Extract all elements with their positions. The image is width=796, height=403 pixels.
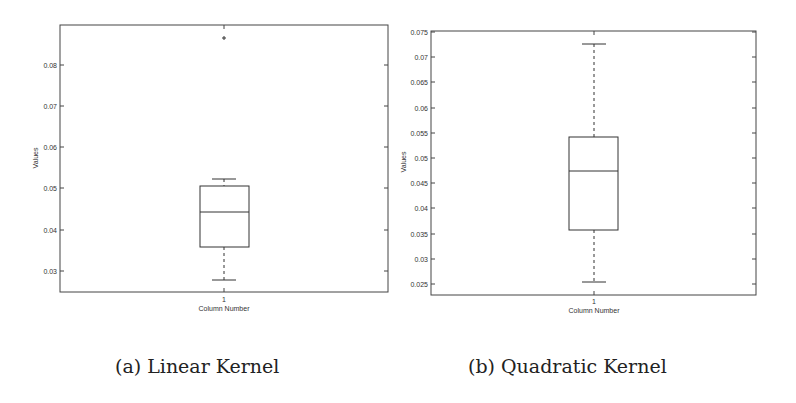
ytick-label: 0.06	[43, 144, 57, 151]
ytick-label: 0.03	[414, 256, 428, 263]
caption-b: (b) Quadratic Kernel	[468, 355, 667, 377]
ytick-label: 0.04	[414, 205, 428, 212]
ytick-label: 0.05	[43, 185, 57, 192]
caption-a: (a) Linear Kernel	[115, 355, 279, 377]
ytick-label: 0.025	[410, 281, 428, 288]
ytick-label: 0.075	[410, 29, 428, 36]
chart-a-axes-box	[60, 25, 388, 292]
chart-a-ytick-labels: 0.08 0.07 0.06 0.05 0.04 0.03	[43, 62, 57, 275]
ytick-label: 0.07	[43, 103, 57, 110]
ytick-label: 0.06	[414, 105, 428, 112]
ytick-label: 0.03	[43, 268, 57, 275]
ytick-label: 0.065	[410, 79, 428, 86]
chart-b-ylabel: Values	[400, 151, 407, 172]
chart-a-ylabel: Values	[32, 147, 39, 168]
outlier-marker	[222, 36, 226, 40]
ytick-label: 0.04	[43, 227, 57, 234]
ytick-label: 0.055	[410, 130, 428, 137]
chart-b-xlabel: Column Number	[569, 307, 621, 314]
chart-a: 0.08 0.07 0.06 0.05 0.04 0.03 Values 1 C…	[32, 25, 388, 312]
ytick-label: 0.08	[43, 62, 57, 69]
chart-b-ytick-labels: 0.075 0.07 0.065 0.06 0.055 0.05 0.045 0…	[410, 29, 428, 288]
ytick-label: 0.045	[410, 180, 428, 187]
ytick-label: 0.035	[410, 231, 428, 238]
chart-b: 0.075 0.07 0.065 0.06 0.055 0.05 0.045 0…	[400, 29, 756, 314]
chart-a-boxplot	[200, 36, 249, 280]
chart-b-boxplot	[569, 44, 618, 282]
chart-b-xtick-label: 1	[592, 298, 596, 305]
chart-a-xlabel: Column Number	[199, 305, 251, 312]
iqr-box	[200, 186, 249, 247]
ytick-label: 0.05	[414, 155, 428, 162]
chart-a-yticks	[60, 25, 388, 292]
chart-a-xtick-label: 1	[222, 296, 226, 303]
iqr-box	[569, 137, 618, 230]
figure: 0.08 0.07 0.06 0.05 0.04 0.03 Values 1 C…	[0, 0, 796, 403]
ytick-label: 0.07	[414, 54, 428, 61]
